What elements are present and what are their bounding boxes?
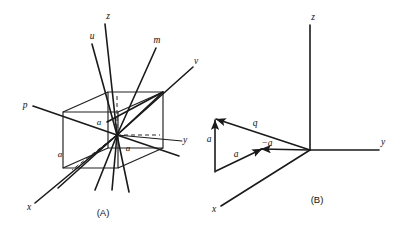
panel-a-axis-lines bbox=[33, 24, 193, 203]
vector-minus-a bbox=[261, 149, 310, 150]
panel-a-label-v: v bbox=[194, 56, 199, 66]
panel-a-label-m: m bbox=[154, 35, 161, 45]
panel-a-label-u: u bbox=[90, 31, 95, 41]
panel-a-caption: (A) bbox=[97, 207, 110, 218]
cube-edge-bl bbox=[63, 148, 108, 168]
axis-line-u bbox=[92, 44, 117, 135]
panel-a-edge-label-a-right: a bbox=[126, 143, 131, 153]
panel-b-label-y: y bbox=[380, 137, 386, 147]
cube-edge-br bbox=[118, 148, 163, 168]
panel-b-label-z: z bbox=[310, 12, 315, 22]
diagram-canvas: z u m v p y x a a a (A) bbox=[0, 0, 402, 230]
panel-a-label-y: y bbox=[182, 135, 188, 145]
cube-edge-tl bbox=[63, 92, 108, 112]
panel-b-label-a-lower: a bbox=[234, 149, 239, 159]
panel-b-label-minus-a: −a bbox=[261, 138, 272, 148]
panel-b-label-x: x bbox=[211, 204, 217, 214]
panel-b-label-q: q bbox=[253, 118, 258, 128]
figure-root: z u m v p y x a a a (A) bbox=[0, 0, 402, 230]
panel-a-edge-label-a-top: a bbox=[97, 117, 102, 127]
panel-b-axes bbox=[221, 25, 379, 206]
panel-b-group: z y x a q −a a (B) bbox=[207, 12, 386, 214]
panel-a-group: z u m v p y x a a a (A) bbox=[22, 11, 199, 218]
panel-a-edge-label-a-left: a bbox=[58, 149, 63, 159]
panel-b-caption: (B) bbox=[311, 194, 324, 205]
panel-b-label-a-vertical: a bbox=[207, 134, 212, 144]
panel-a-label-p: p bbox=[22, 100, 28, 110]
axis-line-x bbox=[35, 135, 117, 203]
vector-a-lower bbox=[216, 149, 262, 171]
panel-a-label-x: x bbox=[26, 202, 32, 212]
axis-line-p bbox=[33, 106, 117, 135]
panel-a-label-z: z bbox=[105, 11, 110, 21]
